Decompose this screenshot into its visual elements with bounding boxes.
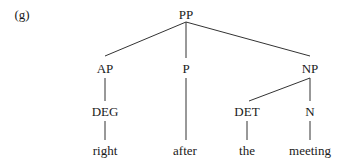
- node-det: DET: [234, 105, 259, 118]
- leaf-meeting: meeting: [289, 144, 331, 157]
- edge-pp-ap: [105, 22, 186, 56]
- edge-np-det: [249, 78, 310, 101]
- leaf-right: right: [93, 144, 118, 157]
- node-deg: DEG: [92, 105, 119, 118]
- node-n: N: [305, 105, 314, 118]
- example-label: (g): [14, 8, 29, 21]
- edge-pp-np: [186, 22, 310, 56]
- leaf-the: the: [239, 144, 255, 157]
- node-ap: AP: [97, 62, 114, 75]
- leaf-after: after: [173, 144, 197, 157]
- node-np: NP: [302, 62, 319, 75]
- tree-edges: [0, 0, 338, 166]
- node-pp: PP: [179, 8, 193, 21]
- node-p: P: [182, 62, 189, 75]
